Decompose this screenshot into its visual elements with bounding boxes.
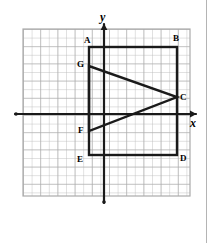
x-axis-label: x: [190, 117, 196, 129]
vertex-label-b: B: [173, 34, 179, 43]
coordinate-plane-svg: [0, 0, 216, 243]
vertex-label-g: G: [77, 60, 84, 69]
vertex-label-d: D: [180, 154, 187, 163]
vertex-label-a: A: [84, 36, 91, 45]
vertex-label-f: F: [78, 126, 84, 135]
vertex-label-c: C: [180, 93, 187, 102]
y-axis-arrow: [101, 24, 108, 31]
coordinate-figure: A B C D E F G y x: [0, 0, 216, 243]
y-axis-bottom-endpoint: [102, 200, 106, 204]
vertex-label-e: E: [77, 155, 83, 164]
grid-lines: [23, 29, 190, 196]
x-axis-left-endpoint: [14, 112, 18, 116]
y-axis-label: y: [100, 11, 105, 23]
page-border-line: [206, 0, 207, 243]
